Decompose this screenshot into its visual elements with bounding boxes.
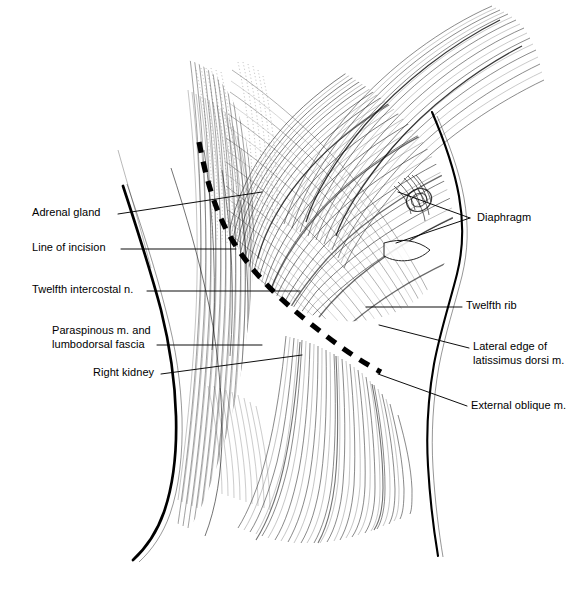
label-twelfth-intercostal-n: Twelfth intercostal n. xyxy=(32,283,133,297)
anatomical-figure: Adrenal gland Line of incision Twelfth i… xyxy=(0,0,586,603)
external-oblique-hatching xyxy=(238,336,412,543)
label-twelfth-rib: Twelfth rib xyxy=(466,299,517,313)
label-diaphragm: Diaphragm xyxy=(477,211,531,225)
leader-external-oblique xyxy=(378,374,467,406)
label-external-oblique-m: External oblique m. xyxy=(471,399,566,413)
label-lateral-edge-of-latissimus-dorsi-m: Lateral edge of latissimus dorsi m. xyxy=(473,340,564,367)
label-line-of-incision: Line of incision xyxy=(32,241,106,255)
diaphragm-shading xyxy=(384,175,436,261)
rib-cage-hatching xyxy=(226,14,496,442)
fine-stipple-fibres xyxy=(196,62,277,248)
latissimus-fibre-fan xyxy=(284,6,544,268)
label-right-kidney: Right kidney xyxy=(93,366,154,380)
anatomy-drawing xyxy=(118,6,544,562)
leader-lateral-edge-latissimus xyxy=(379,325,469,348)
label-adrenal-gland: Adrenal gland xyxy=(32,206,101,220)
lateral-flank-contour xyxy=(427,112,467,557)
label-paraspinous-m-and-lumbodorsal-fascia: Paraspinous m. and lumbodorsal fascia xyxy=(52,324,151,351)
